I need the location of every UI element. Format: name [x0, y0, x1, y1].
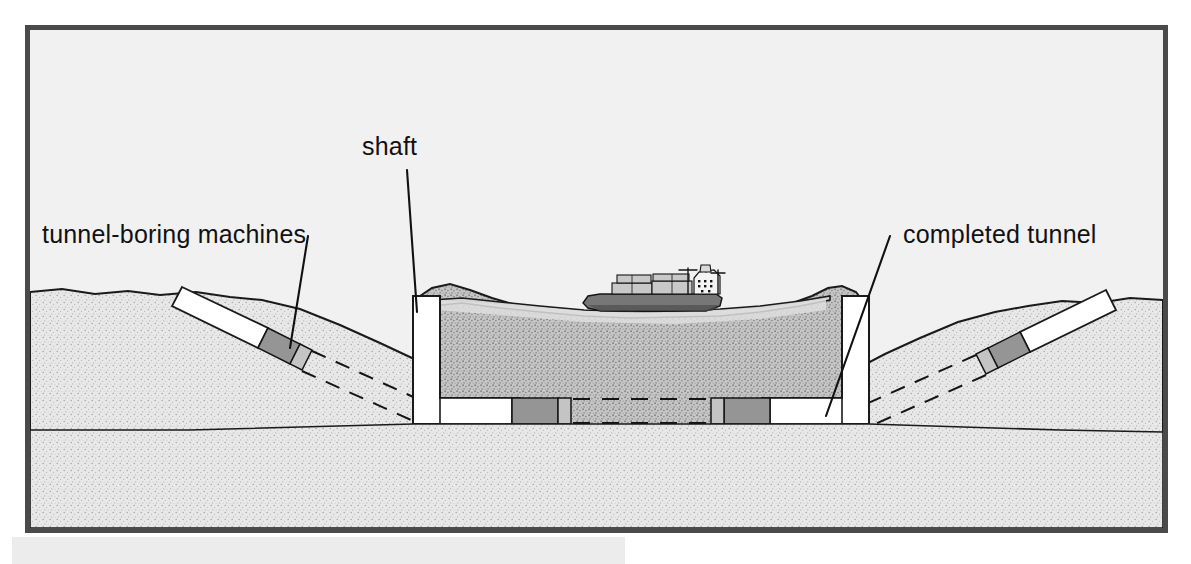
tbm-cutter-head: [711, 398, 724, 424]
label-tunnel-boring-machines: tunnel-boring machines: [42, 220, 306, 248]
label-completed-tunnel: completed tunnel: [903, 220, 1097, 248]
central-bore-left-void: [440, 398, 512, 424]
tbm-body: [512, 398, 558, 424]
deep-stratum: [30, 424, 1163, 528]
tbm-cutter-head: [558, 398, 571, 424]
ship-hull-shadow: [588, 305, 718, 311]
figure-interior: tunnel-boring machines shaft completed t…: [30, 30, 1163, 528]
label-shaft: shaft: [362, 132, 417, 160]
central-right-tbm: [711, 398, 770, 424]
central-left-tbm: [512, 398, 571, 424]
caption-block: [12, 537, 625, 564]
tbm-body: [724, 398, 770, 424]
figure-stage: tunnel-boring machines shaft completed t…: [0, 0, 1191, 564]
tunnel-cross-section-figure: tunnel-boring machines shaft completed t…: [0, 0, 1191, 564]
ship-funnel: [700, 265, 711, 272]
